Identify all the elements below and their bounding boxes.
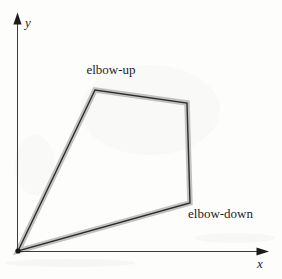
y-axis-arrowhead [13, 13, 21, 25]
scan-smudge [80, 65, 220, 155]
x-axis-label: x [256, 256, 263, 271]
scan-smudge [5, 259, 135, 267]
elbow-down-label: elbow-down [188, 206, 253, 221]
x-axis-arrowhead [257, 248, 270, 256]
elbow-up-label: elbow-up [86, 62, 135, 77]
scan-smudge [195, 233, 275, 243]
origin-point [15, 248, 20, 253]
workspace-diagram: elbow-up elbow-down y x [0, 0, 282, 279]
y-axis-label: y [23, 15, 31, 30]
workspace-figure: elbow-up elbow-down y x [0, 0, 282, 279]
